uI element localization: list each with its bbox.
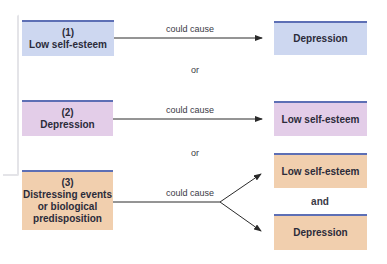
effects-joiner: and: [305, 196, 335, 207]
effect-box-1: Depression: [274, 21, 367, 55]
separator-or-1: or: [180, 65, 210, 75]
effect-box-3b: Depression: [274, 214, 367, 250]
relation-label-1: could cause: [150, 24, 230, 34]
scenario-number-1: (1): [62, 27, 74, 39]
cause-line-3b: or biological: [38, 201, 97, 213]
scenario-number-2: (2): [61, 107, 73, 119]
scenario-number-3: (3): [61, 177, 73, 189]
effect-label-3b: Depression: [293, 227, 347, 239]
arrow-3-lower: [220, 202, 261, 231]
cause-label-1: Low self-esteem: [29, 39, 107, 51]
effect-label-2: Low self-esteem: [282, 114, 360, 126]
cause-box-2: (2) Depression: [22, 100, 113, 136]
effect-label-3a: Low self-esteem: [282, 166, 360, 178]
effect-box-3a: Low self-esteem: [274, 153, 367, 188]
effect-label-1: Depression: [293, 33, 347, 45]
cause-box-1: (1) Low self-esteem: [22, 20, 114, 56]
cause-line-3a: Distressing events: [23, 189, 112, 201]
cause-line-3c: predisposition: [33, 213, 102, 225]
effect-box-2: Low self-esteem: [274, 101, 367, 136]
relation-label-2: could cause: [150, 105, 230, 115]
separator-or-2: or: [180, 148, 210, 158]
cause-label-2: Depression: [40, 119, 94, 131]
relation-label-3: could cause: [150, 188, 230, 198]
cause-box-3: (3) Distressing events or biological pre…: [22, 170, 113, 230]
